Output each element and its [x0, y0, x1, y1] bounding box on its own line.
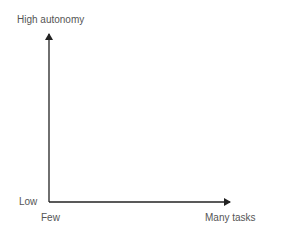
many-tasks-label: Many tasks [205, 212, 256, 224]
axes [0, 0, 288, 237]
high-autonomy-label: High autonomy [17, 14, 84, 26]
few-label: Few [41, 212, 60, 224]
low-label: Low [19, 196, 37, 208]
